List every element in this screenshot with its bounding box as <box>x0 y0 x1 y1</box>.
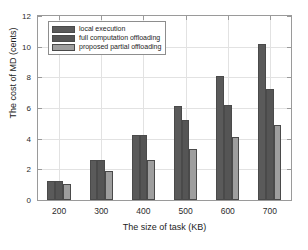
gridline <box>38 169 291 170</box>
bar <box>266 89 274 200</box>
gridline <box>38 139 291 140</box>
x-axis-title: The size of task (KB) <box>37 222 292 232</box>
legend-item: proposed partial offloading <box>52 43 161 51</box>
bar <box>258 44 266 200</box>
y-axis-tick-label: 0 <box>27 196 31 205</box>
bar <box>232 137 240 200</box>
bar <box>132 135 140 200</box>
bar <box>47 181 55 200</box>
y-axis-tick <box>38 108 42 109</box>
bar <box>182 120 190 200</box>
gridline <box>38 108 291 109</box>
y-axis-tick <box>38 77 42 78</box>
y-axis-tick-label: 12 <box>22 12 31 21</box>
bar <box>140 135 148 200</box>
bar <box>55 181 63 200</box>
x-axis-tick-label: 600 <box>221 206 235 216</box>
legend-label: local execution <box>79 25 125 33</box>
bar <box>63 184 71 200</box>
legend-swatch <box>52 26 75 33</box>
legend-item: full computation offloading <box>52 34 161 42</box>
y-axis-tick-right <box>287 77 291 78</box>
y-axis-tick-label: 6 <box>27 104 31 113</box>
legend-swatch <box>52 35 75 42</box>
legend: local executionfull computation offloadi… <box>48 21 166 55</box>
bar <box>224 105 232 200</box>
y-axis-title: The cost of MD (cents) <box>8 0 18 148</box>
y-axis-tick-right <box>287 200 291 201</box>
y-axis-tick-right <box>287 169 291 170</box>
bar <box>97 160 105 200</box>
y-axis-tick-right <box>287 108 291 109</box>
bar <box>105 171 113 200</box>
legend-label: full computation offloading <box>79 34 160 42</box>
x-axis-tick-label: 500 <box>178 206 192 216</box>
x-axis-tick-label: 200 <box>52 206 66 216</box>
x-axis-tick-label: 300 <box>94 206 108 216</box>
y-axis-tick-right <box>287 16 291 17</box>
bar <box>147 160 155 200</box>
y-axis-tick <box>38 200 42 201</box>
y-axis-tick-label: 2 <box>27 165 31 174</box>
bar-group <box>216 16 239 200</box>
bar-group <box>258 16 281 200</box>
y-axis-tick-right <box>287 47 291 48</box>
y-axis-tick-right <box>287 139 291 140</box>
y-axis-tick-label: 8 <box>27 73 31 82</box>
bar <box>174 106 182 200</box>
y-axis-tick-label: 10 <box>22 42 31 51</box>
y-axis-tick-label: 4 <box>27 134 31 143</box>
bar <box>274 125 282 200</box>
figure: 024681012200300400500600700 The cost of … <box>0 0 308 250</box>
legend-item: local execution <box>52 25 161 33</box>
x-axis-tick-label: 400 <box>136 206 150 216</box>
legend-swatch <box>52 44 75 51</box>
y-axis-tick <box>38 139 42 140</box>
y-axis-tick <box>38 47 42 48</box>
gridline <box>38 77 291 78</box>
bar <box>216 76 224 200</box>
bar-group <box>174 16 197 200</box>
legend-label: proposed partial offloading <box>79 43 161 51</box>
y-axis-tick <box>38 169 42 170</box>
x-axis-tick-label: 700 <box>263 206 277 216</box>
bar <box>189 149 197 200</box>
bar <box>90 160 98 200</box>
y-axis-tick <box>38 16 42 17</box>
